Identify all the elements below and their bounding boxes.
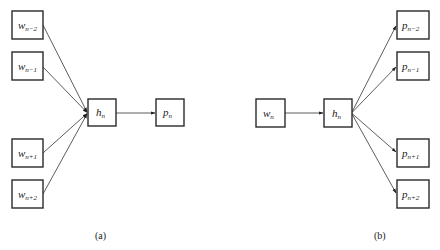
edge-h-n-to-p-n-minus-1 <box>352 67 396 113</box>
edge-h-n-to-p-n-plus-1 <box>352 114 396 153</box>
node-w-n-plus-1: wn+1 <box>12 139 43 167</box>
edge-h-n-to-p-n-minus-2 <box>352 26 396 112</box>
node-h-n-b: hn <box>324 99 352 127</box>
node-w-n-plus-2: wn+2 <box>12 180 43 208</box>
diagram-canvas: wn−2 wn−1 wn+1 wn+2 hn pn (a) <box>0 0 440 250</box>
caption-b: (b) <box>374 230 386 242</box>
node-p-n-plus-2: pn+2 <box>397 180 429 208</box>
edge-w-n-plus-2-to-h-n <box>43 114 87 194</box>
node-p-n-plus-1: pn+1 <box>397 139 429 167</box>
node-p-n-minus-2: pn−2 <box>397 11 429 39</box>
node-h-n-a: hn <box>88 99 116 126</box>
panel-b: wn hn pn−2 pn−1 pn+1 pn+2 (b) <box>256 11 429 242</box>
edge-w-n-minus-2-to-h-n <box>43 25 87 112</box>
caption-a: (a) <box>95 230 106 242</box>
node-p-n-minus-1: pn−1 <box>397 52 429 80</box>
node-w-n-minus-2: wn−2 <box>12 11 43 39</box>
edge-h-n-to-p-n-plus-2 <box>352 114 396 193</box>
edge-w-n-plus-1-to-h-n <box>43 114 87 154</box>
edge-w-n-minus-1-to-h-n <box>43 67 87 113</box>
node-w-n: wn <box>256 99 285 127</box>
panel-a: wn−2 wn−1 wn+1 wn+2 hn pn (a) <box>12 11 184 242</box>
node-p-n: pn <box>156 99 184 126</box>
node-w-n-minus-1: wn−1 <box>12 52 43 80</box>
